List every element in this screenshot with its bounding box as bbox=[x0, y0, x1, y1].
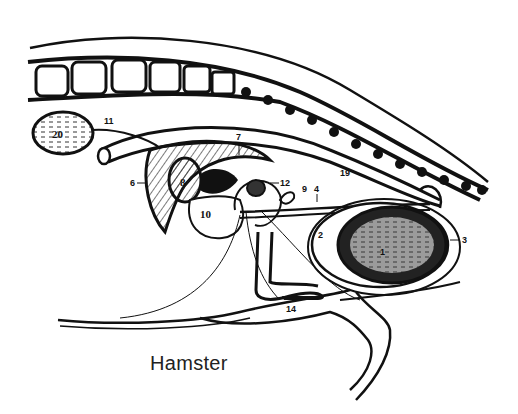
label-14: 14 bbox=[286, 304, 296, 314]
label-2: 2 bbox=[318, 230, 323, 240]
label-11: 11 bbox=[104, 116, 114, 126]
label-6: 6 bbox=[130, 178, 135, 188]
label-4: 4 bbox=[314, 184, 319, 194]
organ-20 bbox=[33, 112, 93, 154]
label-9: 9 bbox=[302, 184, 307, 194]
label-10: 10 bbox=[200, 208, 212, 220]
label-12: 12 bbox=[280, 178, 290, 188]
label-1: 1 bbox=[380, 247, 385, 257]
hamster-anatomy-diagram: 1 2 3 4 6 7 8 9 10 11 12 14 19 20 Hamste… bbox=[0, 0, 518, 414]
label-3: 3 bbox=[462, 235, 467, 245]
diagram-drawing: 1 2 3 4 6 7 8 9 10 11 12 14 19 20 bbox=[0, 0, 518, 414]
label-7: 7 bbox=[236, 132, 241, 142]
label-8: 8 bbox=[180, 176, 186, 188]
diagram-caption: Hamster bbox=[150, 352, 228, 375]
label-19: 19 bbox=[340, 168, 350, 178]
label-20: 20 bbox=[52, 128, 64, 140]
